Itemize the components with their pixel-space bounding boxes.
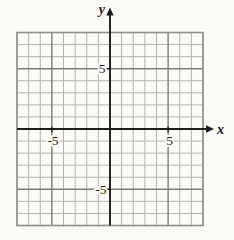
y-axis-label: y xyxy=(97,2,106,17)
coordinate-plane: 5 -5 -5 5 y x xyxy=(0,0,234,240)
scanned-graph-paper-figure: 5 -5 -5 5 y x xyxy=(0,0,234,240)
y-tick-label-neg5: -5 xyxy=(95,182,106,197)
paper-background xyxy=(0,0,234,240)
x-tick-label-5: 5 xyxy=(166,133,173,148)
x-tick-label-neg5: -5 xyxy=(47,133,58,148)
x-axis-label: x xyxy=(216,122,224,137)
y-tick-label-5: 5 xyxy=(99,61,106,76)
